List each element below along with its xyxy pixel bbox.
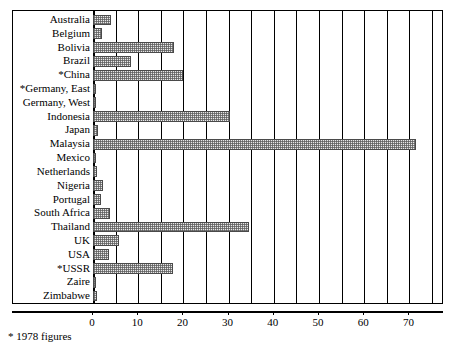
x-tick-label-20: 20 bbox=[177, 316, 188, 329]
plot-area: AustraliaBelgiumBoliviaBrazil*China*Germ… bbox=[12, 10, 443, 304]
category-label: Thailand bbox=[13, 220, 90, 234]
x-tick-label-50: 50 bbox=[313, 316, 324, 329]
x-tick-30 bbox=[228, 311, 229, 315]
x-tick-label-30: 30 bbox=[222, 316, 233, 329]
bar-portugal bbox=[93, 194, 101, 205]
category-label: *China bbox=[13, 68, 90, 82]
x-tick-50 bbox=[318, 311, 319, 315]
category-label: *USSR bbox=[13, 262, 90, 276]
bar-uk bbox=[93, 235, 119, 246]
x-tick-60 bbox=[363, 311, 364, 315]
bar-netherlands bbox=[93, 166, 97, 177]
bar-mexico bbox=[93, 153, 96, 164]
bar-zaire bbox=[93, 277, 96, 288]
x-tick-label-60: 60 bbox=[358, 316, 369, 329]
x-tick-label-0: 0 bbox=[89, 316, 95, 329]
category-label: Nigeria bbox=[13, 179, 90, 193]
x-tick-label-10: 10 bbox=[132, 316, 143, 329]
category-label: UK bbox=[13, 234, 90, 248]
bar-thailand bbox=[93, 222, 249, 233]
bar-germanyeast bbox=[93, 84, 96, 95]
x-tick-20 bbox=[182, 311, 183, 315]
category-label: Malaysia bbox=[13, 137, 90, 151]
bar-china bbox=[93, 70, 183, 81]
bar-ussr bbox=[93, 263, 173, 274]
category-label: Indonesia bbox=[13, 110, 90, 124]
category-label: USA bbox=[13, 248, 90, 262]
bar-southafrica bbox=[93, 208, 110, 219]
category-label: Germany, West bbox=[13, 96, 90, 110]
category-label: Brazil bbox=[13, 54, 90, 68]
category-label: Japan bbox=[13, 123, 90, 137]
x-tick-0 bbox=[92, 311, 93, 315]
bar-indonesia bbox=[93, 111, 230, 122]
bar-bolivia bbox=[93, 42, 174, 53]
category-label: Bolivia bbox=[13, 41, 90, 55]
category-label: Netherlands bbox=[13, 165, 90, 179]
bar-nigeria bbox=[93, 180, 103, 191]
bar-rows: AustraliaBelgiumBoliviaBrazil*China*Germ… bbox=[13, 11, 442, 303]
bar-germanywest bbox=[93, 97, 96, 108]
category-label: Belgium bbox=[13, 27, 90, 41]
category-label: Australia bbox=[13, 13, 90, 27]
x-tick-label-70: 70 bbox=[403, 316, 414, 329]
category-label: South Africa bbox=[13, 206, 90, 220]
bar-usa bbox=[93, 249, 109, 260]
x-tick-label-40: 40 bbox=[267, 316, 278, 329]
x-tick-10 bbox=[137, 311, 138, 315]
category-label: *Germany, East bbox=[13, 82, 90, 96]
bar-chart: AustraliaBelgiumBoliviaBrazil*China*Germ… bbox=[0, 0, 455, 346]
bar-japan bbox=[93, 125, 98, 136]
x-tick-40 bbox=[273, 311, 274, 315]
bar-brazil bbox=[93, 56, 131, 67]
bar-zimbabwe bbox=[93, 291, 97, 302]
category-label: Portugal bbox=[13, 193, 90, 207]
category-label: Zimbabwe bbox=[13, 289, 90, 303]
x-tick-70 bbox=[408, 311, 409, 315]
category-label: Mexico bbox=[13, 151, 90, 165]
category-label: Zaire bbox=[13, 275, 90, 289]
footnote: * 1978 figures bbox=[8, 330, 72, 343]
bar-malaysia bbox=[93, 139, 416, 150]
bar-belgium bbox=[93, 28, 102, 39]
bar-australia bbox=[93, 15, 111, 26]
